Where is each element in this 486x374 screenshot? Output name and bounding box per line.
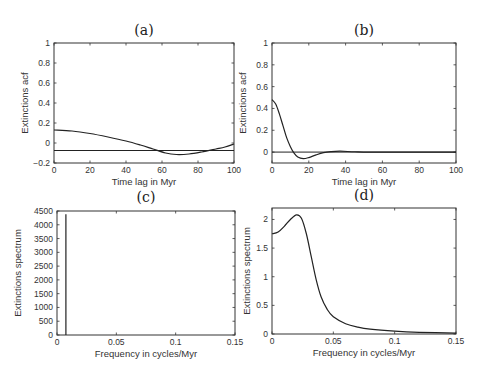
y-tick-label: 2000: [34, 275, 53, 285]
x-axis-label: Time lag in Myr: [332, 176, 397, 187]
y-tick-label: 0.6: [38, 78, 50, 88]
axes-frame: [57, 211, 235, 335]
y-axis-label: Extinctions acf: [237, 72, 248, 134]
y-axis-label: Extinctions spectrum: [241, 227, 252, 315]
y-tick-label: 1: [263, 38, 268, 48]
x-tick-label: 60: [157, 165, 167, 175]
y-tick-label: 0.4: [256, 103, 268, 113]
y-tick-label: 3000: [34, 247, 53, 257]
y-axis-label: Extinctions spectrum: [12, 229, 23, 317]
panel-b: (b)02040608010000.20.40.60.81Time lag in…: [237, 22, 463, 187]
y-tick-label: 1: [263, 272, 268, 282]
panel-d: (d)00.050.10.1500.511.52Frequency in cyc…: [241, 187, 465, 358]
y-tick-label: −0.2: [33, 158, 50, 168]
x-tick-label: 20: [85, 165, 95, 175]
x-tick-label: 80: [193, 165, 203, 175]
figure-canvas: (a)020406080100−0.200.20.40.60.81Time la…: [0, 0, 486, 374]
axes-frame: [272, 208, 456, 334]
y-tick-label: 4000: [34, 220, 53, 230]
x-tick-label: 100: [227, 165, 241, 175]
x-tick-label: 0: [270, 336, 275, 346]
x-tick-label: 0.15: [448, 336, 465, 346]
y-tick-label: 0: [45, 138, 50, 148]
y-tick-label: 0: [263, 147, 268, 157]
x-tick-label: 100: [449, 165, 463, 175]
y-tick-label: 3500: [34, 234, 53, 244]
y-tick-label: 0.2: [256, 125, 268, 135]
y-tick-label: 2: [263, 214, 268, 224]
y-tick-label: 0.2: [38, 118, 50, 128]
axes-frame: [54, 43, 234, 163]
y-tick-label: 0.8: [38, 58, 50, 68]
y-axis-label: Extinctions acf: [19, 72, 30, 134]
y-tick-label: 1: [45, 38, 50, 48]
panel-title: (c): [137, 189, 156, 205]
y-tick-label: 0.6: [256, 82, 268, 92]
series-spectrum: [272, 215, 456, 333]
axes-frame: [272, 43, 456, 163]
y-tick-label: 0: [48, 330, 53, 340]
x-tick-label: 20: [304, 165, 314, 175]
x-tick-label: 0.15: [227, 337, 244, 347]
x-axis-label: Time lag in Myr: [112, 176, 177, 187]
y-tick-label: 0.8: [256, 60, 268, 70]
panel-title: (d): [354, 187, 374, 203]
y-tick-label: 0: [263, 329, 268, 339]
x-tick-label: 0: [270, 165, 275, 175]
y-tick-label: 4500: [34, 206, 53, 216]
y-tick-label: 2500: [34, 261, 53, 271]
x-tick-label: 0.1: [389, 336, 401, 346]
x-tick-label: 0.1: [170, 337, 182, 347]
series-acf: [272, 100, 456, 159]
panel-c: (c)00.050.10.150500100015002000250030003…: [12, 189, 244, 359]
panel-a: (a)020406080100−0.200.20.40.60.81Time la…: [19, 22, 241, 187]
x-tick-label: 60: [378, 165, 388, 175]
y-tick-label: 1.5: [256, 243, 268, 253]
y-tick-label: 1000: [34, 302, 53, 312]
y-tick-label: 0.4: [38, 98, 50, 108]
x-tick-label: 0.05: [325, 336, 342, 346]
x-tick-label: 0: [55, 337, 60, 347]
x-tick-label: 40: [341, 165, 351, 175]
panel-title: (b): [354, 22, 374, 38]
panel-title: (a): [134, 22, 153, 38]
x-tick-label: 40: [121, 165, 131, 175]
x-tick-label: 0: [52, 165, 57, 175]
y-tick-label: 0.5: [256, 300, 268, 310]
x-tick-label: 80: [414, 165, 424, 175]
y-tick-label: 1500: [34, 289, 53, 299]
x-tick-label: 0.05: [108, 337, 125, 347]
y-tick-label: 500: [39, 316, 53, 326]
x-axis-label: Frequency in cycles/Myr: [313, 347, 415, 358]
x-axis-label: Frequency in cycles/Myr: [95, 348, 197, 359]
